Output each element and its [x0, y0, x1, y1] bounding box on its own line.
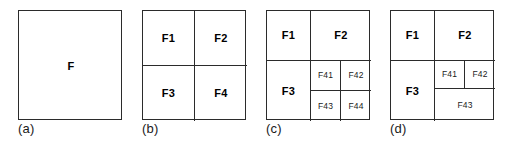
region-label-f41: F41 [442, 70, 457, 79]
region-label-f4: F4 [214, 88, 227, 99]
panel-a-caption: (a) [18, 122, 35, 136]
region-cell-f41: F41 [435, 61, 465, 89]
region-cell-f3: F3 [391, 61, 435, 121]
region-cell-f41: F41 [311, 61, 341, 91]
region-cell-f42: F42 [341, 61, 371, 91]
region-cell-f43: F43 [311, 91, 341, 121]
region-label-f1: F1 [162, 33, 175, 44]
figure-root: F (a) F1 F2 F3 F4 (b) F1 [0, 0, 507, 146]
panel-c-caption: (c) [266, 122, 282, 136]
region-cell-f1: F1 [143, 11, 195, 66]
region-label-f2: F2 [214, 33, 227, 44]
region-cell-f2: F2 [311, 11, 371, 61]
panel-b-caption: (b) [142, 122, 159, 136]
region-label-f43: F43 [318, 102, 333, 111]
region-label-f2: F2 [334, 30, 347, 41]
panel-b-box: F1 F2 F3 F4 [142, 10, 246, 120]
region-label-f3: F3 [162, 88, 175, 99]
region-label-f42: F42 [472, 70, 487, 79]
region-label-f44: F44 [348, 102, 363, 111]
region-label-f: F [67, 61, 74, 72]
region-label-f41: F41 [318, 71, 333, 80]
region-label-f2: F2 [458, 30, 471, 41]
region-cell-f1: F1 [391, 11, 435, 61]
region-cell-f42: F42 [465, 61, 495, 89]
region-cell-f4: F4 [195, 66, 247, 121]
region-cell-f3: F3 [143, 66, 195, 121]
panel-d-caption: (d) [390, 122, 407, 136]
region-cell-f2: F2 [435, 11, 495, 61]
panel-c-box: F1 F2 F3 F41 F42 F43 F44 [266, 10, 370, 120]
region-label-f3: F3 [282, 86, 295, 97]
region-cell-f43: F43 [435, 89, 495, 121]
region-cell-f: F [19, 11, 123, 121]
region-label-f1: F1 [282, 30, 295, 41]
panel-d-box: F1 F2 F3 F41 F42 F43 [390, 10, 494, 120]
region-cell-f3: F3 [267, 61, 311, 121]
region-label-f42: F42 [348, 71, 363, 80]
region-label-f43: F43 [457, 101, 472, 110]
region-cell-f44: F44 [341, 91, 371, 121]
region-label-f3: F3 [406, 86, 419, 97]
region-cell-f2: F2 [195, 11, 247, 66]
panel-a-box: F [18, 10, 122, 120]
region-label-f1: F1 [406, 30, 419, 41]
region-cell-f1: F1 [267, 11, 311, 61]
